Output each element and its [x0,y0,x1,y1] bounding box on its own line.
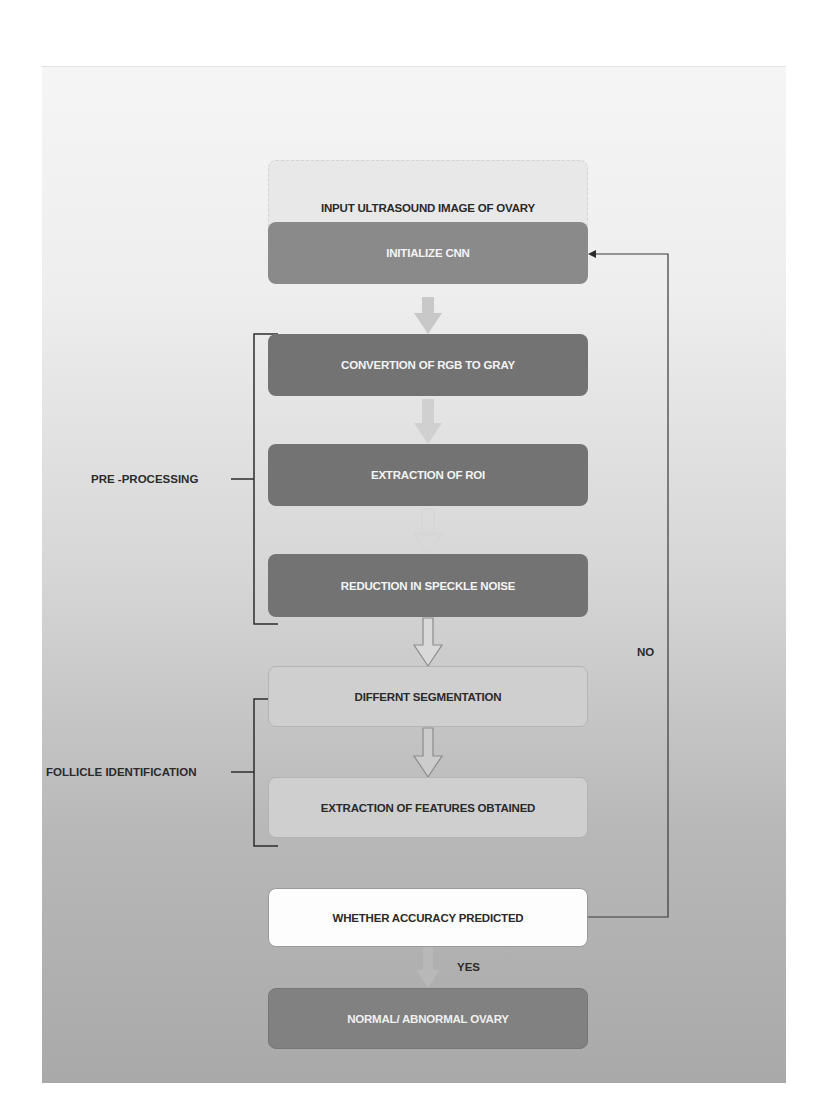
node-label: NORMAL/ ABNORMAL OVARY [347,1013,509,1025]
feedback-loop-no [588,254,668,917]
feedback-arrowhead-icon [588,250,596,258]
node-accuracy-decision: WHETHER ACCURACY PREDICTED [268,888,588,947]
node-label: WHETHER ACCURACY PREDICTED [333,912,524,924]
arrow-init-to-rgb [414,297,442,334]
node-label: INPUT ULTRASOUND IMAGE OF OVARY [321,202,535,214]
node-extract-roi: EXTRACTION OF ROI [268,444,588,506]
edge-label-yes: YES [457,961,480,973]
node-label: CONVERTION OF RGB TO GRAY [341,359,515,371]
node-label: EXTRACTION OF ROI [371,469,485,481]
node-label: EXTRACTION OF FEATURES OBTAINED [321,802,535,814]
node-extract-features: EXTRACTION OF FEATURES OBTAINED [268,777,588,838]
arrow-seg-to-features [414,728,442,777]
node-label: INITIALIZE CNN [386,247,469,259]
node-label: DIFFERNT SEGMENTATION [355,691,502,703]
group-label-follicle-identification: FOLLICLE IDENTIFICATION [46,766,197,778]
arrow-rgb-to-roi [414,399,442,444]
arrow-roi-to-speckle [414,509,442,554]
node-normal-abnormal-output: NORMAL/ ABNORMAL OVARY [268,988,588,1049]
group-label-pre-processing: PRE -PROCESSING [91,473,198,485]
node-segmentation: DIFFERNT SEGMENTATION [268,666,588,727]
arrow-decision-to-output [416,946,440,988]
node-initialize-cnn: INITIALIZE CNN [268,222,588,284]
node-convert-rgb-gray: CONVERTION OF RGB TO GRAY [268,334,588,396]
arrow-speckle-to-seg [414,618,442,666]
edge-label-no: NO [637,646,654,658]
node-reduce-speckle-noise: REDUCTION IN SPECKLE NOISE [268,554,588,617]
node-label: REDUCTION IN SPECKLE NOISE [341,580,515,592]
